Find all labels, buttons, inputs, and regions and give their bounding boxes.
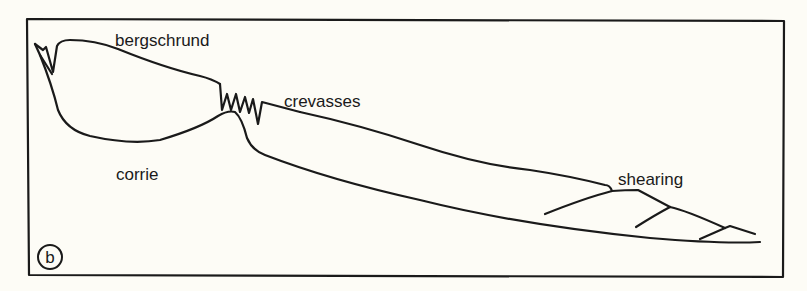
shearing-plane-1 bbox=[545, 190, 670, 214]
label-crevasses: crevasses bbox=[284, 93, 361, 110]
glacier-surface-lower bbox=[300, 112, 612, 191]
shearing-plane-3 bbox=[700, 226, 755, 239]
corrie-bed bbox=[40, 55, 760, 243]
glacier-surface-snout bbox=[670, 207, 725, 228]
glacier-cross-section-diagram: bergschrund crevasses corrie shearing b bbox=[0, 0, 807, 291]
shearing-plane-2 bbox=[636, 207, 670, 227]
label-shearing: shearing bbox=[618, 171, 683, 188]
label-corrie: corrie bbox=[116, 166, 159, 183]
panel-label-badge: b bbox=[37, 244, 63, 270]
panel-label-text: b bbox=[45, 249, 54, 266]
label-bergschrund: bergschrund bbox=[115, 32, 210, 49]
